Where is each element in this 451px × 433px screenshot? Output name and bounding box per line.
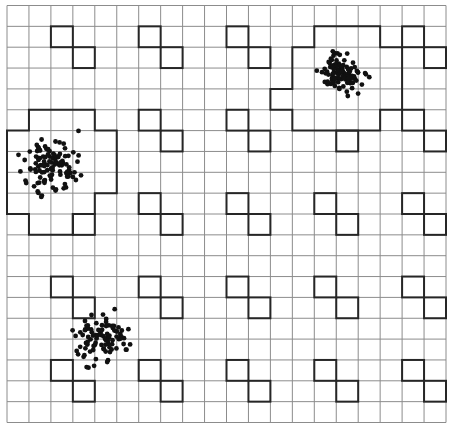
data-point: [53, 139, 58, 144]
data-point: [63, 154, 68, 159]
data-point: [85, 339, 90, 344]
data-point: [54, 187, 59, 192]
data-point: [124, 347, 129, 352]
data-point: [96, 328, 101, 333]
data-point: [99, 333, 104, 338]
data-point: [61, 186, 66, 191]
data-point: [53, 159, 58, 164]
data-point: [75, 159, 80, 164]
data-point: [320, 70, 325, 75]
data-point: [337, 87, 342, 92]
data-point: [128, 342, 133, 347]
data-point: [74, 178, 79, 183]
data-point: [84, 365, 89, 370]
data-point: [65, 169, 70, 174]
data-point: [110, 338, 115, 343]
data-point: [71, 150, 76, 155]
data-point: [18, 169, 23, 174]
data-point: [121, 342, 126, 347]
data-point: [350, 86, 355, 91]
data-point: [58, 169, 63, 174]
background: [0, 0, 451, 433]
data-point: [107, 345, 112, 350]
data-point: [27, 149, 32, 154]
data-point: [37, 180, 42, 185]
data-point: [64, 162, 69, 167]
data-point: [334, 58, 339, 63]
data-point: [33, 161, 38, 166]
data-point: [94, 357, 99, 362]
data-point: [367, 75, 372, 80]
data-point: [42, 170, 47, 175]
data-point: [52, 152, 57, 157]
data-point: [50, 165, 55, 170]
data-point: [103, 342, 108, 347]
data-point: [118, 332, 123, 337]
data-point: [38, 175, 43, 180]
data-point: [78, 344, 83, 349]
data-point: [345, 51, 350, 56]
data-point: [354, 78, 359, 83]
data-point: [330, 71, 335, 76]
data-point: [16, 152, 21, 157]
data-point: [94, 321, 99, 326]
data-point: [344, 89, 349, 94]
data-point: [356, 91, 361, 96]
data-point: [22, 158, 27, 163]
data-point: [39, 137, 44, 142]
data-point: [329, 58, 334, 63]
data-point: [34, 170, 39, 175]
data-point: [72, 170, 77, 175]
data-point: [342, 76, 347, 81]
data-point: [43, 144, 48, 149]
data-point: [47, 173, 52, 178]
data-point: [32, 184, 37, 189]
data-point: [91, 333, 96, 338]
data-point: [337, 52, 342, 57]
data-point: [345, 80, 350, 85]
data-point: [76, 129, 81, 134]
data-point: [28, 166, 33, 171]
data-point: [79, 173, 84, 178]
data-point: [63, 146, 68, 151]
data-point: [322, 80, 327, 85]
data-point: [100, 323, 105, 328]
data-point: [73, 334, 78, 339]
data-point: [58, 160, 63, 165]
data-point: [101, 312, 106, 317]
data-point: [76, 352, 81, 357]
data-point: [339, 69, 344, 74]
data-point: [118, 336, 123, 341]
data-point: [346, 76, 351, 81]
data-point: [83, 319, 88, 324]
data-point: [70, 328, 75, 333]
data-point: [314, 68, 319, 73]
grid-diagram: [0, 0, 451, 433]
data-point: [84, 323, 89, 328]
data-point: [92, 363, 97, 368]
data-point: [105, 360, 110, 365]
data-point: [43, 155, 48, 160]
data-point: [332, 76, 337, 81]
data-point: [336, 80, 341, 85]
data-point: [34, 143, 39, 148]
data-point: [104, 324, 109, 329]
data-point: [91, 348, 96, 353]
data-point: [351, 60, 356, 65]
data-point: [58, 152, 63, 157]
data-point: [341, 63, 346, 68]
data-point: [108, 350, 113, 355]
data-point: [356, 70, 361, 75]
data-point: [42, 179, 47, 184]
data-point: [63, 182, 68, 187]
data-point: [34, 154, 39, 159]
data-point: [93, 340, 98, 345]
data-point: [360, 82, 365, 87]
data-point: [350, 81, 355, 86]
data-point: [342, 58, 347, 63]
data-point: [126, 327, 131, 332]
data-point: [82, 353, 87, 358]
data-point: [61, 141, 66, 146]
data-point: [345, 94, 350, 99]
data-point: [37, 148, 42, 153]
